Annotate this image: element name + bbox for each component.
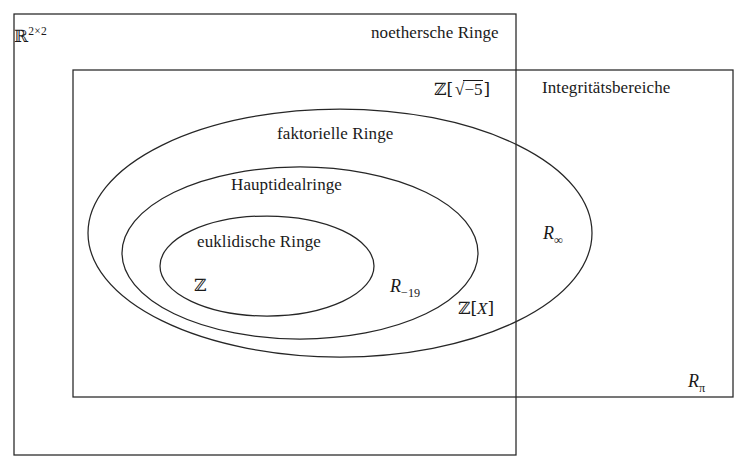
label-zx-open: ℤ[ [458, 298, 477, 318]
label-integers: ℤ [194, 277, 206, 294]
label-rm19-base: R [390, 276, 401, 296]
label-noetherian-rings: noethersche Ringe [371, 24, 499, 41]
label-r-pi: Rπ [688, 372, 705, 394]
label-zx-variable: X [477, 299, 487, 318]
label-principal-ideal-rings: Hauptidealringe [231, 176, 342, 193]
label-r2x2-exponent: 2×2 [28, 25, 47, 38]
label-real-2x2-matrices: ℝ2×2 [14, 26, 47, 45]
label-zsqrt5-close: ] [483, 79, 490, 99]
ellipse-euclidean-rings [160, 216, 374, 316]
label-euclidean-rings: euklidische Ringe [197, 233, 321, 250]
label-rinf-subscript: ∞ [554, 233, 563, 247]
rect-integral-domains [73, 70, 733, 397]
label-r-infinity: R∞ [543, 224, 563, 246]
label-r2x2-base: ℝ [14, 26, 28, 46]
ring-hierarchy-diagram: ℝ2×2 noethersche Ringe ℤ[√−5] Integrität… [0, 0, 746, 467]
diagram-canvas [0, 0, 746, 467]
label-z-adjoin-sqrt-minus-five: ℤ[√−5] [434, 80, 490, 98]
label-rinf-base: R [543, 223, 554, 243]
label-integral-domains: Integritätsbereiche [542, 79, 670, 96]
label-rpi-subscript: π [699, 381, 705, 395]
label-r-minus-19: R−19 [390, 277, 420, 299]
label-zsqrt5-open: ℤ[ [434, 79, 453, 99]
radical-icon: √−5 [453, 80, 483, 98]
label-integers-glyph: ℤ [194, 275, 206, 295]
label-zx-close: ] [487, 298, 494, 318]
label-zsqrt5-radicand: −5 [463, 80, 483, 98]
label-factorial-rings: faktorielle Ringe [277, 125, 393, 142]
label-rpi-base: R [688, 371, 699, 391]
label-z-polynomial-ring: ℤ[X] [458, 300, 494, 317]
label-rm19-subscript: −19 [401, 286, 420, 300]
